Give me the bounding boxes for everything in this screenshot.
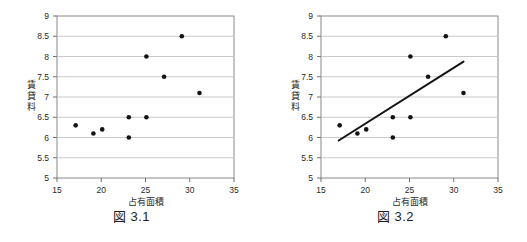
figure-caption: 図 3.1 [0, 206, 263, 225]
scatter-plot-3-1: 9 8.5 8 7.5 7 6.5 6 5.5 5 15 20 25 30 35… [0, 0, 263, 206]
data-point [337, 123, 342, 128]
y-tick-label: 8 [308, 52, 313, 62]
y-axis-title-char: 貸 [27, 90, 36, 101]
x-tick-label: 30 [185, 185, 195, 195]
y-tick-label: 9 [308, 11, 313, 21]
y-tick-label: 7 [308, 92, 313, 102]
x-tick-label: 35 [493, 185, 503, 195]
x-axis-title: 占有面積 [128, 196, 164, 206]
y-axis-title-char: 賃 [27, 79, 36, 90]
y-axis-title-char: 料 [291, 101, 300, 112]
data-point [100, 127, 105, 132]
data-point [391, 135, 396, 140]
y-tick-label: 5 [44, 173, 49, 183]
x-tick-label: 25 [405, 185, 415, 195]
data-point [127, 135, 132, 140]
data-point [144, 54, 149, 59]
figure-pair-page: 9 8.5 8 7.5 7 6.5 6 5.5 5 15 20 25 30 35… [0, 0, 527, 242]
y-tick-label: 8 [44, 52, 49, 62]
y-axis-ticks [53, 16, 57, 178]
y-tick-labels: 9 8.5 8 7.5 7 6.5 6 5.5 5 [301, 11, 313, 183]
y-tick-label: 5.5 [37, 153, 49, 163]
x-tick-label: 20 [361, 185, 371, 195]
x-tick-label: 15 [316, 185, 326, 195]
data-point [408, 115, 413, 120]
data-point [408, 54, 413, 59]
data-point [144, 115, 149, 120]
y-axis-title: 賃 貸 料 [291, 79, 300, 112]
y-tick-label: 6 [44, 133, 49, 143]
figure-3-2: 9 8.5 8 7.5 7 6.5 6 5.5 5 15 20 25 30 35… [264, 0, 527, 242]
x-axis-title: 占有面積 [392, 196, 428, 206]
figure-3-1: 9 8.5 8 7.5 7 6.5 6 5.5 5 15 20 25 30 35… [0, 0, 263, 242]
data-point [197, 91, 202, 96]
x-tick-label: 35 [229, 185, 239, 195]
y-tick-label: 8.5 [37, 31, 49, 41]
y-tick-label: 9 [44, 11, 49, 21]
data-point [91, 131, 96, 136]
x-tick-labels: 15 20 25 30 35 [52, 185, 239, 195]
x-tick-label: 20 [97, 185, 107, 195]
y-tick-label: 8.5 [301, 31, 313, 41]
y-tick-label: 6 [308, 133, 313, 143]
y-tick-label: 6.5 [301, 112, 313, 122]
data-point [391, 115, 396, 120]
y-tick-label: 6.5 [37, 112, 49, 122]
y-axis-title-char: 貸 [291, 90, 300, 101]
data-point [162, 74, 167, 79]
data-point [444, 34, 449, 39]
x-tick-label: 15 [52, 185, 62, 195]
y-tick-label: 7.5 [37, 72, 49, 82]
x-tick-label: 30 [449, 185, 459, 195]
y-tick-labels: 9 8.5 8 7.5 7 6.5 6 5.5 5 [37, 11, 49, 183]
data-point [180, 34, 185, 39]
data-point [73, 123, 78, 128]
x-tick-labels: 15 20 25 30 35 [316, 185, 503, 195]
y-tick-label: 5 [308, 173, 313, 183]
x-tick-label: 25 [141, 185, 151, 195]
data-point [461, 91, 466, 96]
data-point [364, 127, 369, 132]
data-point [426, 74, 431, 79]
y-axis-ticks [317, 16, 321, 178]
x-axis-ticks [321, 178, 498, 182]
y-tick-label: 7 [44, 92, 49, 102]
x-axis-ticks [57, 178, 234, 182]
y-axis-title-char: 賃 [291, 79, 300, 90]
scatter-plot-3-2: 9 8.5 8 7.5 7 6.5 6 5.5 5 15 20 25 30 35… [264, 0, 527, 206]
y-tick-label: 7.5 [301, 72, 313, 82]
data-point [355, 131, 360, 136]
y-axis-title: 賃 貸 料 [27, 79, 36, 112]
y-axis-title-char: 料 [27, 101, 36, 112]
figure-caption: 図 3.2 [264, 206, 527, 225]
data-point [127, 115, 132, 120]
y-tick-label: 5.5 [301, 153, 313, 163]
